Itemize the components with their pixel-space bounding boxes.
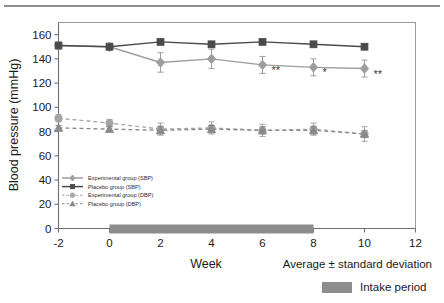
top-divider <box>4 5 440 7</box>
data-point-square <box>55 42 62 49</box>
data-point-triangle <box>105 125 113 133</box>
legend-item: Experimental group (SBP) <box>62 175 153 181</box>
x-tick-label: 6 <box>259 237 265 249</box>
y-tick-label: 160 <box>32 29 51 41</box>
data-point-square <box>208 41 215 48</box>
x-tick-label: 0 <box>106 237 112 249</box>
y-tick-label: 80 <box>39 126 52 138</box>
significance-marker: * <box>323 66 328 78</box>
x-tick-label: 2 <box>157 237 163 249</box>
data-point-square <box>310 41 317 48</box>
blood-pressure-line-chart: 020406080100120140160 -2024681012 ***** … <box>0 0 444 303</box>
data-point-square <box>157 38 164 45</box>
y-axis-title: Blood pressure (mmHg) <box>7 59 21 192</box>
data-point-triangle <box>70 201 75 206</box>
data-point-diamond <box>156 58 164 68</box>
legend-label: Experimental group (SBP) <box>88 175 153 181</box>
data-point-square <box>361 43 368 50</box>
y-tick-label: 120 <box>32 77 51 89</box>
data-point-diamond <box>70 175 75 181</box>
data-point-circle <box>70 193 75 198</box>
y-tick-label: 140 <box>32 53 51 65</box>
data-point-diamond <box>207 54 215 64</box>
x-tick-label: -2 <box>53 237 63 249</box>
data-point-circle <box>55 115 62 122</box>
x-tick-label: 10 <box>358 237 371 249</box>
series-triangle <box>54 124 368 138</box>
y-tick-label: 60 <box>39 150 52 162</box>
data-point-square <box>70 184 74 188</box>
significance-marker: ** <box>272 64 281 76</box>
x-tick-label: 12 <box>409 237 422 249</box>
x-axis-title: Week <box>190 257 222 271</box>
data-point-diamond <box>309 63 317 73</box>
figure-container: 020406080100120140160 -2024681012 ***** … <box>0 0 444 303</box>
x-tick-label: 4 <box>208 237 215 249</box>
legend-item: Placebo group (SBP) <box>62 184 141 190</box>
data-series-layer <box>54 38 368 141</box>
significance-marker: ** <box>374 68 383 80</box>
data-point-square <box>106 43 113 50</box>
legend-item: Experimental group (DBP) <box>62 192 153 198</box>
chart-legend: Experimental group (SBP)Placebo group (S… <box>62 175 153 207</box>
data-point-square <box>259 38 266 45</box>
legend-label: Experimental group (DBP) <box>88 192 153 198</box>
intake-period-swatch <box>322 282 352 293</box>
y-tick-label: 0 <box>45 223 51 235</box>
average-deviation-note: Average ± standard deviation <box>283 258 432 270</box>
series-square <box>55 38 368 50</box>
y-tick-label: 40 <box>39 174 52 186</box>
y-tick-label: 20 <box>39 198 52 210</box>
intake-period-bar <box>110 225 314 234</box>
y-tick-label: 100 <box>32 101 51 113</box>
data-point-diamond <box>360 64 368 74</box>
legend-label: Placebo group (SBP) <box>88 184 141 190</box>
data-point-diamond <box>258 60 266 70</box>
x-tick-label: 8 <box>310 237 316 249</box>
legend-item: Placebo group (DBP) <box>62 201 141 207</box>
legend-label: Placebo group (DBP) <box>88 201 141 207</box>
intake-period-label: Intake period <box>360 281 427 293</box>
